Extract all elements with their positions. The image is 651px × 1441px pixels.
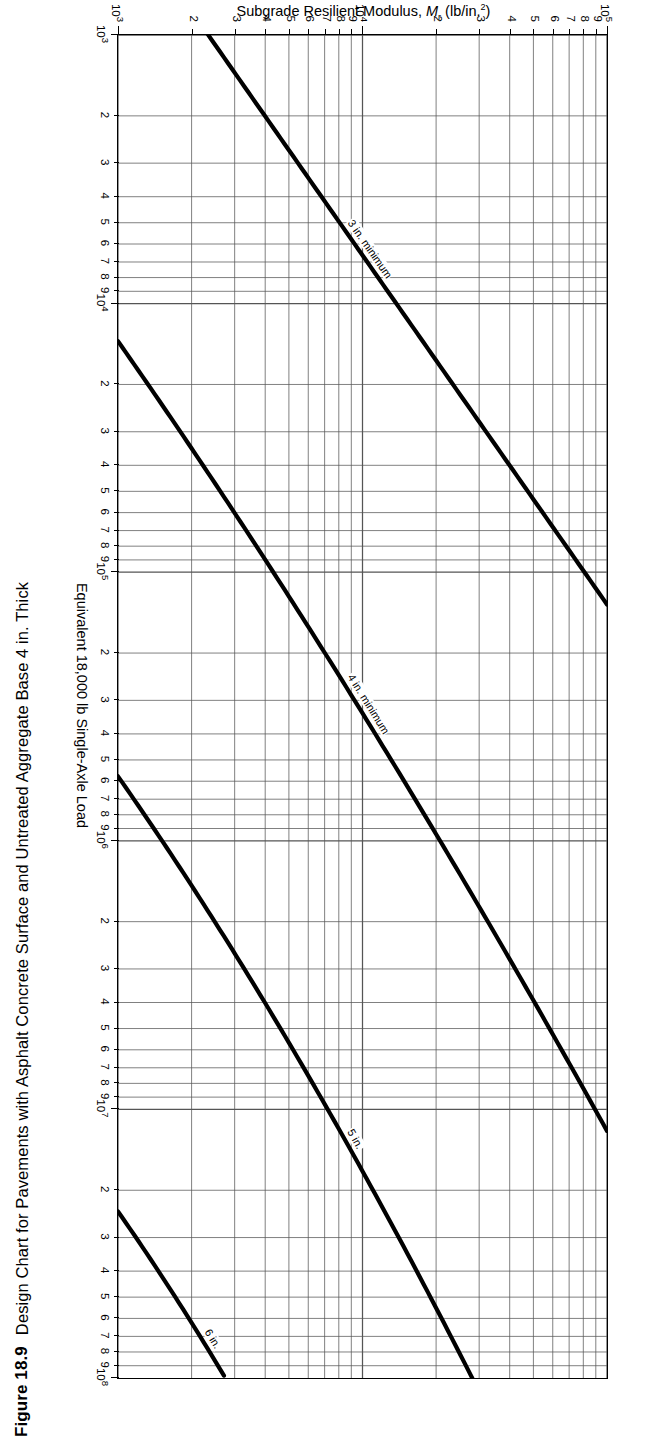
x-minor-label: 3 [99,1219,111,1255]
x-tick [111,34,119,35]
x-minor-label: 2 [99,365,111,401]
x-tick [114,1351,119,1352]
x-tick [114,243,119,244]
x-tick [111,1108,119,1109]
x-tick [114,780,119,781]
x-tick [114,1317,119,1318]
x-minor-label: 2 [99,97,111,133]
x-decade-label: 107 [95,1090,110,1126]
curve-label-4-in-minimum: 4 in. minimum [345,671,393,737]
x-tick [114,545,119,546]
x-tick [114,1365,119,1366]
x-tick [114,759,119,760]
x-axis-title: Equivalent 18,000 lb Single-Axle Load [74,34,90,1377]
x-tick [114,828,119,829]
x-tick [114,464,119,465]
y-tick [607,26,608,34]
x-tick [114,921,119,922]
x-tick [114,115,119,116]
x-minor-label: 3 [99,144,111,180]
y-tick [325,29,326,34]
y-tick [583,29,584,34]
x-minor-label: 2 [99,634,111,670]
x-minor-label: 3 [99,413,111,449]
x-minor-label: 3 [99,950,111,986]
x-minor-label: 3 [99,681,111,717]
y-axis-title: Subgrade Resilient Modulus, Mr (lb/in.2) [119,2,608,22]
x-decade-label: 103 [95,16,110,52]
x-tick [114,490,119,491]
x-tick [114,798,119,799]
x-tick [114,1067,119,1068]
x-minor-label: 2 [99,903,111,939]
x-tick [114,1296,119,1297]
figure-number: Figure 18.9 [12,1346,32,1437]
y-tick [289,29,290,34]
y-tick [553,29,554,34]
x-decade-label: 106 [95,822,110,858]
x-tick [114,1002,119,1003]
x-tick [114,699,119,700]
curve-label-6-in-: 6 in. [202,1326,224,1352]
y-tick [479,29,480,34]
x-decade-label: 108 [95,1359,110,1395]
x-decade-label: 105 [95,553,110,589]
x-tick [114,1028,119,1029]
plot-area: 3 in. minimum4 in. minimum5 in.6 in. [117,34,608,1379]
y-tick [265,29,266,34]
x-tick [114,512,119,513]
x-tick [114,1049,119,1050]
y-tick [235,29,236,34]
y-tick [436,29,437,34]
x-tick [114,290,119,291]
design-chart: 3 in. minimum4 in. minimum5 in.6 in. 103… [62,0,622,1441]
y-tick [510,29,511,34]
y-tick [351,29,352,34]
x-tick [114,261,119,262]
y-tick [533,29,534,34]
x-tick [114,383,119,384]
x-tick [111,840,119,841]
x-tick [114,162,119,163]
figure-caption: Figure 18.9 Design Chart for Pavements w… [0,0,44,1441]
x-tick [114,196,119,197]
y-tick [192,29,193,34]
x-tick [114,530,119,531]
x-tick [114,431,119,432]
x-tick [111,1377,119,1378]
y-tick [363,26,364,34]
x-tick [114,559,119,560]
x-tick [114,814,119,815]
curve-label-layer: 3 in. minimum4 in. minimum5 in.6 in. [118,35,607,1378]
x-tick [114,1335,119,1336]
x-tick [114,277,119,278]
x-tick [114,1270,119,1271]
x-tick [114,1237,119,1238]
figure-title: Design Chart for Pavements with Asphalt … [13,582,32,1335]
x-tick [114,1189,119,1190]
curve-label-5-in-: 5 in. [345,1126,367,1152]
y-tick [308,29,309,34]
y-tick [569,29,570,34]
x-tick [114,222,119,223]
x-decade-label: 104 [95,285,110,321]
y-tick [596,29,597,34]
y-tick [339,29,340,34]
x-tick [114,652,119,653]
x-minor-label: 2 [99,1171,111,1207]
x-tick [114,1082,119,1083]
x-tick [114,733,119,734]
curve-label-3-in-minimum: 3 in. minimum [345,217,395,282]
y-tick [118,26,119,34]
x-tick [114,968,119,969]
x-tick [114,1096,119,1097]
x-tick [111,571,119,572]
x-tick [111,303,119,304]
